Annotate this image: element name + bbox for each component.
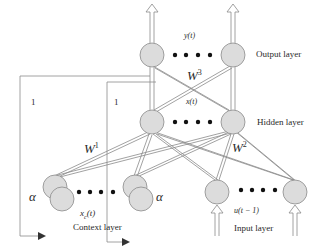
input-layer-nodes [205,180,307,204]
hidden-ellipsis-dots [173,120,212,124]
w2-sup: 2 [243,140,247,149]
context-variable-arg: (t) [87,208,96,218]
feedback-arrowheads [38,232,130,246]
input-ellipsis-dots [239,188,277,192]
w1-base: W [84,141,95,156]
context-ellipsis-dots [77,190,115,194]
hidden-variable-label: x(t) [186,97,197,106]
hidden-layer-label: Hidden layer [257,117,304,127]
w3-base: W [187,68,198,83]
hidden-layer-nodes [140,110,245,134]
input-variable-label: u(t − 1) [234,206,259,215]
alpha-left-label: α [29,189,36,205]
w2-connections [153,132,296,181]
w2-label: W2 [232,140,247,156]
output-ellipsis-dots [173,53,212,57]
w3-sup: 3 [198,68,202,77]
output-layer-label: Output layer [256,49,301,59]
w1-label: W1 [84,141,99,157]
w2-base: W [232,140,243,155]
output-layer-nodes [140,43,245,67]
w1-sup: 1 [95,141,99,150]
context-layer-label: Context layer [73,222,122,232]
w3-label: W3 [187,68,202,84]
alpha-right-label: α [156,189,163,205]
feedback-gain-right: 1 [114,97,119,107]
context-variable-label: xc(t) [80,208,95,220]
output-variable-label: y(t) [184,31,195,40]
w1-connections [54,131,231,178]
elman-network-diagram: y(t) x(t) u(t − 1) xc(t) Output layer Hi… [0,0,328,249]
context-layer-nodes [43,175,153,211]
input-layer-label: Input layer [234,223,273,233]
feedback-gain-left: 1 [31,97,36,107]
